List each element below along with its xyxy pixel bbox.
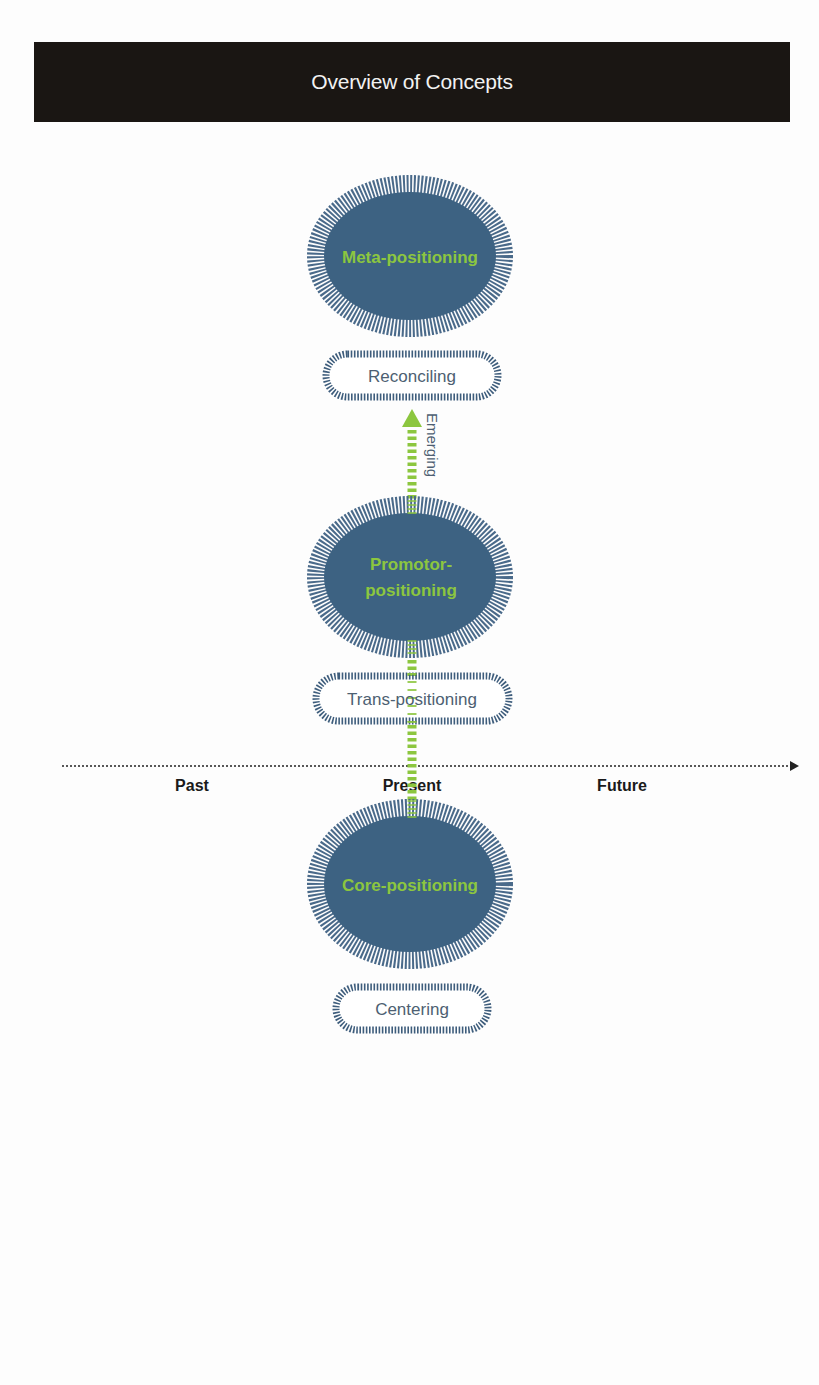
ellipse-label-promotor-line1: Promotor-: [370, 555, 452, 574]
pill-label-reconciling: Reconciling: [368, 367, 456, 386]
arrow-label-emerging: Emerging: [424, 413, 441, 477]
timeline-axis: Past Present Future: [62, 761, 799, 794]
ellipse-meta-positioning: Meta-positioning: [316, 184, 504, 328]
page: Overview of Concepts Past Present Future…: [0, 0, 819, 1385]
ellipse-label-meta: Meta-positioning: [342, 248, 478, 267]
axis-arrowhead-icon: [790, 761, 799, 771]
timeline-label-future: Future: [597, 777, 647, 794]
ellipse-promotor-positioning: Promotor- positioning: [316, 500, 504, 656]
pill-label-trans: Trans-positioning: [347, 690, 477, 709]
concept-diagram: Past Present Future Meta-positioning Rec…: [0, 0, 819, 1385]
ellipse-core-positioning: Core-positioning: [316, 800, 504, 960]
ellipse-label-core: Core-positioning: [342, 876, 478, 895]
pill-trans-positioning: Trans-positioning: [316, 673, 509, 724]
timeline-label-past: Past: [175, 777, 209, 794]
pill-reconciling: Reconciling: [326, 354, 498, 397]
pill-label-centering: Centering: [375, 1000, 449, 1019]
ellipse-label-promotor-line2: positioning: [365, 581, 457, 600]
pill-centering: Centering: [336, 987, 488, 1030]
arrow-up-icon: [402, 409, 422, 427]
